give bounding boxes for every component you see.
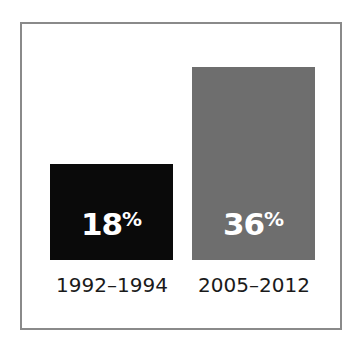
- bar-value-label: 18%: [81, 206, 142, 242]
- category-label-1992-1994: 1992–1994: [42, 273, 182, 297]
- bar-1992-1994: 18%: [50, 164, 173, 260]
- bar-2005-2012: 36%: [192, 67, 315, 260]
- category-label-2005-2012: 2005–2012: [184, 273, 324, 297]
- bar-value-label: 36%: [223, 206, 284, 242]
